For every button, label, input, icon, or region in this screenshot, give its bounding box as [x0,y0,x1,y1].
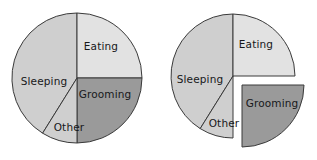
right-label-eating: Eating [239,38,273,50]
left-pie-chart: Eating Sleeping Grooming Other [12,13,142,143]
right-label-grooming: Grooming [246,97,299,109]
charts-canvas: Eating Sleeping Grooming Other Eating Sl… [0,0,317,160]
left-label-sleeping: Sleeping [21,75,68,87]
left-label-eating: Eating [84,40,118,52]
pie-chart-figure: Eating Sleeping Grooming Other Eating Sl… [0,0,317,160]
right-slice-grooming-exploded[interactable] [242,85,304,147]
left-label-grooming: Grooming [79,88,132,100]
left-label-other: Other [54,121,85,133]
right-label-other: Other [209,117,240,129]
right-label-sleeping: Sleeping [177,73,224,85]
right-pie-chart: Eating Sleeping Grooming Other [171,14,304,147]
